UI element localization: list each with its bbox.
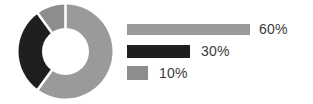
donut-chart-graphic	[17, 2, 114, 101]
donut-chart-figure: 60% 30% 10%	[0, 0, 313, 104]
legend-label-60: 60%	[259, 22, 288, 36]
legend-swatch-60	[127, 24, 250, 35]
legend-item-60[interactable]: 60%	[127, 22, 288, 36]
donut-hole	[42, 28, 89, 75]
legend-item-10[interactable]: 10%	[127, 66, 188, 80]
legend-swatch-10	[127, 66, 148, 80]
legend-item-30[interactable]: 30%	[127, 44, 230, 58]
chart-legend: 60% 30% 10%	[127, 19, 313, 87]
legend-label-30: 30%	[201, 44, 230, 58]
legend-swatch-30	[127, 45, 190, 58]
donut-svg	[17, 2, 114, 101]
legend-label-10: 10%	[159, 66, 188, 80]
